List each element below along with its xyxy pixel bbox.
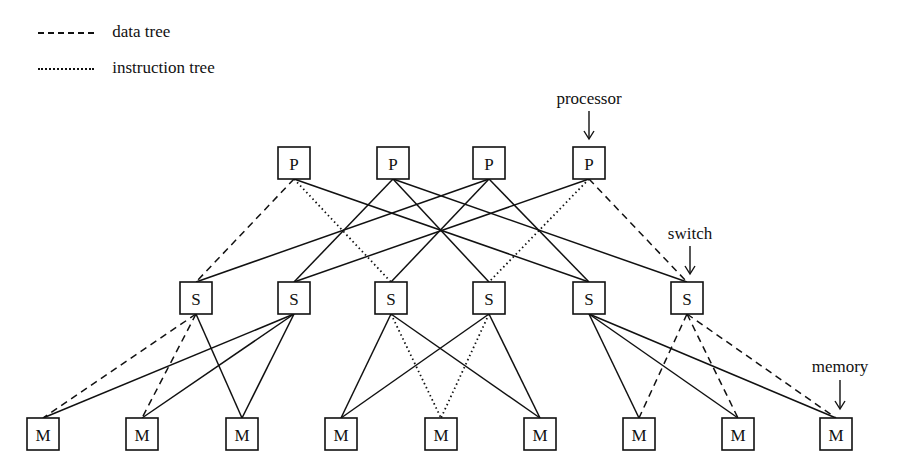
node-label: M xyxy=(631,426,646,445)
memory-node-m4: M xyxy=(325,418,357,450)
memory-node-m9: M xyxy=(820,418,852,450)
switch-label: switch xyxy=(668,224,713,243)
node-label: M xyxy=(134,426,149,445)
node-label: M xyxy=(234,426,249,445)
node-label: M xyxy=(35,426,50,445)
switch-callout: switch xyxy=(668,224,713,274)
processor-callout: processor xyxy=(556,89,621,139)
node-label: S xyxy=(584,290,593,309)
edges-layer xyxy=(43,179,836,418)
edge-s4-m6 xyxy=(489,314,540,418)
edge-s3-m4 xyxy=(341,314,391,418)
memory-label: memory xyxy=(812,357,869,376)
memory-node-m5: M xyxy=(425,418,457,450)
processor-label: processor xyxy=(556,89,621,108)
processor-node-p2: P xyxy=(377,147,409,179)
edge-p1-s1 xyxy=(196,179,294,282)
memory-node-m8: M xyxy=(722,418,754,450)
switch-node-s3: S xyxy=(375,282,407,314)
node-label: S xyxy=(484,290,493,309)
edge-s5-m9 xyxy=(589,314,836,418)
edge-s5-m8 xyxy=(589,314,738,418)
edge-s2-m2 xyxy=(142,314,294,418)
edge-s5-m7 xyxy=(589,314,639,418)
edge-s2-m3 xyxy=(242,314,294,418)
switch-node-s5: S xyxy=(573,282,605,314)
nodes-layer: PPPPSSSSSSMMMMMMMMM xyxy=(27,147,852,450)
node-label: S xyxy=(191,290,200,309)
processor-node-p4: P xyxy=(573,147,605,179)
node-label: P xyxy=(388,155,397,174)
processor-node-p1: P xyxy=(278,147,310,179)
memory-node-m7: M xyxy=(623,418,655,450)
switch-node-s1: S xyxy=(180,282,212,314)
memory-node-m1: M xyxy=(27,418,59,450)
node-label: S xyxy=(386,290,395,309)
node-label: P xyxy=(584,155,593,174)
node-label: M xyxy=(828,426,843,445)
switch-node-s4: S xyxy=(473,282,505,314)
edge-s2-m1 xyxy=(43,314,294,418)
memory-callout: memory xyxy=(812,357,869,409)
network-diagram: PPPPSSSSSSMMMMMMMMM processor switch mem… xyxy=(0,0,907,472)
node-label: M xyxy=(433,426,448,445)
processor-node-p3: P xyxy=(473,147,505,179)
memory-node-m2: M xyxy=(126,418,158,450)
memory-node-m3: M xyxy=(226,418,258,450)
switch-node-s6: S xyxy=(671,282,703,314)
node-label: S xyxy=(682,290,691,309)
node-label: S xyxy=(289,290,298,309)
edge-p3-s1 xyxy=(196,179,489,282)
node-label: M xyxy=(730,426,745,445)
switch-node-s2: S xyxy=(278,282,310,314)
node-label: M xyxy=(532,426,547,445)
edge-s1-m1 xyxy=(43,314,196,418)
node-label: M xyxy=(333,426,348,445)
memory-node-m6: M xyxy=(524,418,556,450)
node-label: P xyxy=(484,155,493,174)
node-label: P xyxy=(289,155,298,174)
